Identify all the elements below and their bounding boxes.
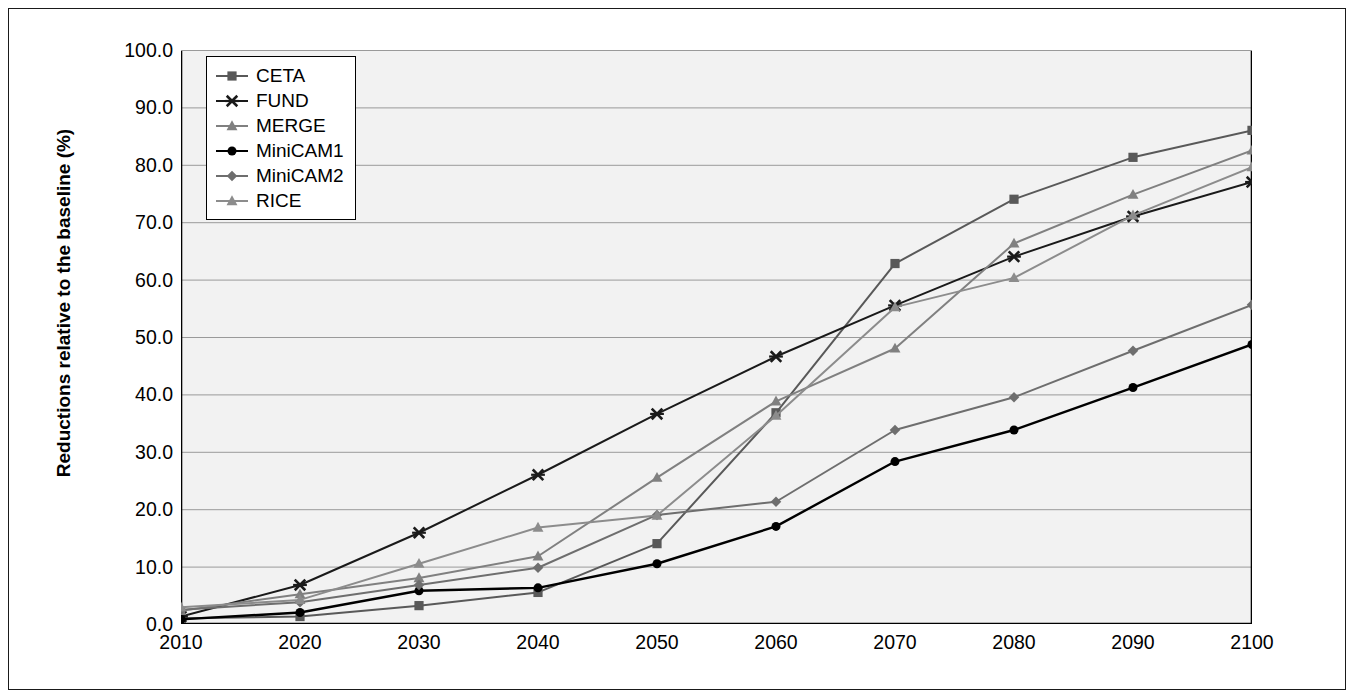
legend-label: FUND: [256, 91, 309, 110]
x-tick-label: 2050: [612, 631, 702, 654]
x-tick-label: 2020: [255, 631, 345, 654]
y-axis-title: Reductions relative to the baseline (%): [53, 33, 75, 573]
chart-figure: Reductions relative to the baseline (%) …: [0, 0, 1354, 698]
legend-marker-icon: [215, 143, 249, 159]
legend-marker-icon: [215, 68, 249, 84]
x-tick-label: 2090: [1088, 631, 1178, 654]
legend-item-rice[interactable]: RICE: [215, 188, 345, 213]
y-tick-label: 80.0: [107, 153, 173, 176]
y-tick-label: 50.0: [107, 326, 173, 349]
legend-marker-icon: [215, 168, 249, 184]
x-tick-label: 2070: [850, 631, 940, 654]
x-tick-label: 2030: [374, 631, 464, 654]
x-tick-label: 2010: [136, 631, 226, 654]
legend-item-ceta[interactable]: CETA: [215, 63, 345, 88]
y-tick-label: 70.0: [107, 211, 173, 234]
line-chart: Reductions relative to the baseline (%) …: [0, 0, 1354, 698]
legend-label: CETA: [256, 66, 305, 85]
legend-label: MiniCAM1: [256, 141, 344, 160]
legend-label: RICE: [256, 191, 301, 210]
x-tick-label: 2100: [1207, 631, 1297, 654]
y-tick-label: 60.0: [107, 268, 173, 291]
y-tick-label: 20.0: [107, 498, 173, 521]
chart-legend: CETAFUNDMERGEMiniCAM1MiniCAM2RICE: [206, 56, 356, 220]
legend-item-minicam2[interactable]: MiniCAM2: [215, 163, 345, 188]
y-tick-label: 30.0: [107, 440, 173, 463]
legend-item-merge[interactable]: MERGE: [215, 113, 345, 138]
legend-marker-icon: [215, 93, 249, 109]
legend-item-minicam1[interactable]: MiniCAM1: [215, 138, 345, 163]
legend-marker-icon: [215, 118, 249, 134]
legend-marker-icon: [215, 193, 249, 209]
legend-label: MERGE: [256, 116, 326, 135]
x-tick-label: 2060: [731, 631, 821, 654]
x-tick-label: 2040: [493, 631, 583, 654]
y-tick-label: 90.0: [107, 96, 173, 119]
y-tick-label: 10.0: [107, 555, 173, 578]
series-minicam1: [181, 340, 1252, 624]
series-fund: [181, 177, 1252, 622]
legend-item-fund[interactable]: FUND: [215, 88, 345, 113]
x-tick-label: 2080: [969, 631, 1059, 654]
y-tick-label: 100.0: [107, 39, 173, 62]
y-tick-label: 40.0: [107, 383, 173, 406]
legend-label: MiniCAM2: [256, 166, 344, 185]
